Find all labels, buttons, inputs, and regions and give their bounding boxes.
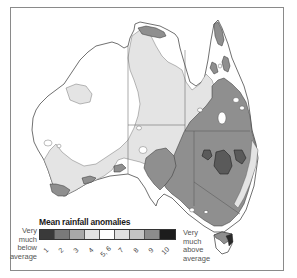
anomaly-hole (218, 64, 222, 68)
legend-swatch-3 (70, 230, 85, 239)
legend-color-scale (39, 229, 176, 240)
legend-swatch-9 (145, 230, 160, 239)
legend-tick: 1 (42, 246, 50, 254)
anomaly-hole (57, 144, 61, 148)
legend-tick: 8 (132, 246, 140, 254)
legend-label-line: average (183, 255, 223, 264)
legend-swatch-8 (130, 230, 145, 239)
anomaly-hole (139, 147, 147, 154)
legend-label-line: average (6, 253, 37, 262)
anomaly-hole (198, 108, 203, 112)
legend-swatch-7 (115, 230, 130, 239)
legend-swatch-2 (55, 230, 70, 239)
legend-label-below-average: Very much below average (6, 227, 37, 261)
legend-label-above-average: Very much above average (183, 229, 223, 263)
anomaly-hole (190, 208, 195, 212)
anomaly-hole (218, 112, 226, 124)
legend-tick: 2 (57, 246, 65, 254)
anomaly-hole (233, 98, 239, 103)
anomaly-hole (204, 210, 208, 213)
legend-tick: 7 (117, 246, 125, 254)
legend-tick: 9 (147, 246, 155, 254)
anomaly-hole (44, 140, 52, 146)
legend-swatch-5-6 (100, 230, 115, 239)
legend-swatch-1 (40, 230, 55, 239)
anomaly-hole (240, 106, 245, 110)
legend-title: Mean rainfall anomalies (39, 217, 130, 227)
legend-tick: 3 (72, 246, 80, 254)
legend-tick: 10 (160, 245, 170, 255)
anomaly-hole (137, 126, 142, 130)
legend-tick: 4 (87, 246, 95, 254)
legend-swatch-4 (85, 230, 100, 239)
legend-tick-labels: 1 2 3 4 5, 6 7 8 9 10 (39, 241, 179, 255)
legend-swatch-10 (160, 230, 175, 239)
